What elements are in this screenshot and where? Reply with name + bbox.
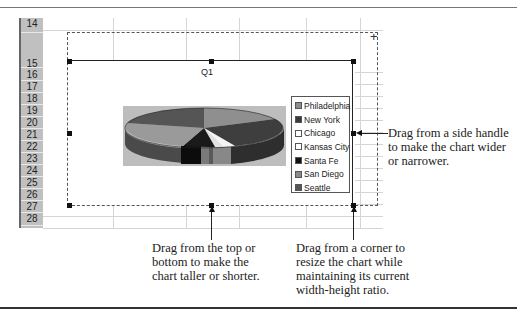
arrow-up-icon [209, 206, 215, 212]
row-header-21[interactable]: 21 [21, 129, 43, 141]
callout-corner-handle: Drag from a corner to resize the chart w… [296, 241, 409, 297]
grid-hline [43, 216, 383, 217]
legend-item-chicago[interactable]: Chicago [295, 126, 349, 140]
row-header-16[interactable]: 16 [21, 69, 43, 81]
pie-chart-3d [123, 106, 286, 166]
top-rule [0, 7, 517, 8]
arrow-up-icon [351, 206, 357, 212]
legend-label: Philadelphia [304, 101, 350, 111]
row-header-14[interactable]: 14 [21, 18, 43, 33]
handle-top-right[interactable] [351, 59, 356, 64]
legend-label: Santa Fe [304, 156, 339, 166]
row-header-27[interactable]: 27 [21, 201, 43, 213]
legend-item-new-york[interactable]: New York [295, 113, 349, 127]
callout-top-bottom-handle: Drag from the top or bottom to make the … [152, 241, 260, 283]
handle-bottom-left[interactable] [67, 203, 72, 208]
legend-label: Chicago [304, 128, 335, 138]
callout-side-handle: Drag from a side handle to make the char… [388, 126, 509, 168]
chart-title[interactable]: Q1 [201, 67, 213, 77]
crosshair-cursor-icon: + [370, 32, 378, 42]
legend-item-san-diego[interactable]: San Diego [295, 167, 349, 181]
row-header-20[interactable]: 20 [21, 117, 43, 129]
legend-item-santa-fe[interactable]: Santa Fe [295, 154, 349, 168]
legend-item-kansas-city[interactable]: Kansas City [295, 140, 349, 154]
plot-area[interactable] [123, 106, 286, 166]
grid-hline [43, 30, 383, 31]
legend-item-philadelphia[interactable]: Philadelphia [295, 99, 349, 113]
legend-label: New York [304, 115, 340, 125]
handle-top-left[interactable] [67, 59, 72, 64]
legend-swatch [295, 143, 302, 150]
row-header-17[interactable]: 17 [21, 81, 43, 93]
row-headers: 14 15 16 17 18 19 20 21 22 23 24 25 26 2… [19, 18, 43, 228]
legend-swatch [295, 157, 302, 164]
callout-leader-line [362, 133, 388, 134]
legend-swatch [295, 184, 302, 191]
row-header-19[interactable]: 19 [21, 105, 43, 117]
legend-swatch [295, 130, 302, 137]
row-header-15[interactable]: 15 [21, 58, 43, 68]
row-header-26[interactable]: 26 [21, 189, 43, 201]
callout-leader-line [353, 212, 354, 240]
chart-legend[interactable]: Philadelphia New York Chicago Kansas Cit… [291, 96, 350, 193]
handle-middle-left[interactable] [67, 131, 72, 136]
callout-leader-line [211, 212, 212, 240]
row-header-28[interactable]: 28 [21, 213, 43, 226]
row-header-23[interactable]: 23 [21, 153, 43, 165]
row-header-24[interactable]: 24 [21, 165, 43, 177]
row-header-22[interactable]: 22 [21, 141, 43, 153]
legend-swatch [295, 171, 302, 178]
grid-hline [43, 228, 383, 229]
legend-label: San Diego [304, 169, 344, 179]
legend-swatch [295, 116, 302, 123]
handle-top-middle[interactable] [209, 59, 214, 64]
row-header-25[interactable]: 25 [21, 177, 43, 189]
legend-label: Kansas City [304, 142, 349, 152]
row-header-18[interactable]: 18 [21, 93, 43, 105]
legend-label: Seattle [304, 183, 330, 193]
legend-swatch [295, 102, 302, 109]
legend-item-seattle[interactable]: Seattle [295, 181, 349, 195]
